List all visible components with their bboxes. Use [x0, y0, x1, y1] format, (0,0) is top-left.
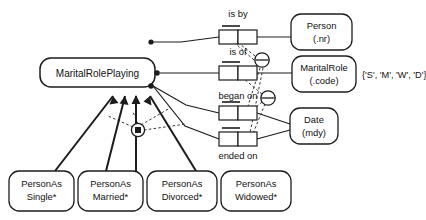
person-as-married-line1: PersonAs — [90, 178, 131, 189]
subtype-arrows — [55, 95, 196, 171]
person-name: Person — [307, 20, 337, 31]
person-as-single-line1: PersonAs — [21, 178, 62, 189]
connector-lines — [151, 37, 292, 139]
role-box-began-on-2[interactable] — [238, 106, 257, 120]
link-objectified-to-beganon — [153, 86, 219, 113]
predicate-is-of[interactable]: is of — [219, 46, 257, 80]
subtype-person-as-single[interactable]: PersonAs Single* — [9, 171, 74, 211]
person-as-married-line2: Married* — [93, 191, 129, 202]
subtype-person-as-widowed[interactable]: PersonAs Widowed* — [221, 171, 291, 211]
maritalrole-name: MaritalRole — [300, 62, 347, 73]
role-box-ended-on-1[interactable] — [219, 132, 238, 146]
link-endedon-to-date — [257, 130, 290, 139]
subtype-person-as-married[interactable]: PersonAs Married* — [78, 171, 143, 211]
person-reference: (.nr) — [313, 33, 330, 44]
subtype-person-as-divorced[interactable]: PersonAs Divorced* — [147, 171, 217, 211]
value-constraint-maritalrole: {'S', 'M', 'W', 'D'} — [362, 70, 426, 80]
predicate-ended-on-label: ended on — [218, 150, 257, 161]
subtype-arrowhead-divorced — [132, 95, 141, 104]
link-beganon-to-date — [257, 113, 290, 124]
person-as-widowed-line2: Widowed* — [235, 191, 278, 202]
subtype-arrow-widowed — [150, 96, 196, 171]
role-box-is-of-2[interactable] — [238, 66, 257, 80]
connector-dot-right — [154, 70, 160, 76]
predicate-began-on[interactable]: began on — [218, 90, 257, 120]
person-as-widowed-line1: PersonAs — [236, 178, 277, 189]
predicate-ended-on[interactable]: ended on — [218, 128, 257, 161]
dash-partition-right — [144, 124, 186, 130]
entity-person[interactable]: Person (.nr) — [291, 14, 352, 50]
date-name: Date — [304, 114, 324, 125]
connector-dot-bottom-right — [148, 83, 154, 89]
maritalroleplaying-label: MaritalRolePlaying — [56, 68, 139, 79]
person-as-single-line2: Single* — [27, 191, 57, 202]
person-as-divorced-line2: Divorced* — [162, 191, 203, 202]
person-as-divorced-line1: PersonAs — [162, 178, 203, 189]
role-box-is-by-2[interactable] — [238, 30, 257, 44]
subtype-arrow-single — [55, 96, 113, 171]
role-box-ended-on-2[interactable] — [238, 132, 257, 146]
entity-maritalrole[interactable]: MaritalRole (.code) — [292, 56, 356, 92]
connector-dot-top — [148, 39, 153, 44]
partition-constraint[interactable] — [131, 123, 144, 136]
orm-diagram: MaritalRolePlaying is by is of began on — [0, 0, 426, 220]
predicate-is-by-label: is by — [228, 8, 248, 19]
maritalrole-reference: (.code) — [309, 75, 338, 86]
objectified-fact-type-maritalroleplaying[interactable]: MaritalRolePlaying — [40, 39, 160, 88]
role-box-is-of-1[interactable] — [219, 66, 238, 80]
predicate-is-of-label: is of — [229, 46, 247, 57]
role-box-began-on-1[interactable] — [219, 106, 238, 120]
predicate-is-by[interactable]: is by — [219, 8, 257, 44]
exclusion-constraint-upper[interactable] — [255, 53, 269, 67]
exclusion-constraint-lower[interactable] — [261, 91, 275, 105]
date-reference: (mdy) — [302, 127, 326, 138]
subtype-arrow-married — [106, 96, 125, 171]
role-box-is-by-1[interactable] — [219, 30, 238, 44]
entity-date[interactable]: Date (mdy) — [290, 108, 338, 144]
orm-diagram-canvas: MaritalRolePlaying is by is of began on — [0, 0, 426, 220]
link-objectified-to-isby — [151, 37, 219, 42]
partition-inner-square — [135, 127, 141, 133]
predicate-began-on-label: began on — [218, 90, 257, 101]
